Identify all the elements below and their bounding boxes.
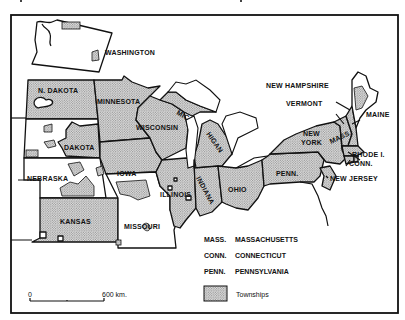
label-penn: PENN.: [276, 170, 298, 177]
township-map: WASHINGTON N. DAKOTA DAKOTA NEBRASKA KAN…: [0, 0, 405, 320]
label-iowa: IOWA: [117, 170, 136, 177]
label-n-dakota: N. DAKOTA: [38, 87, 78, 94]
label-new-york-a: NEW: [303, 130, 320, 137]
legend-abbr-conn: CONN.: [204, 252, 227, 259]
label-wisconsin: WISCONSIN: [136, 124, 178, 131]
label-rhode-island: RHODE I.: [352, 151, 385, 158]
label-new-hampshire: NEW HAMPSHIRE: [266, 82, 329, 89]
legend-abbr-penn: PENN.: [204, 268, 225, 275]
label-illinois: ILLINOIS: [160, 191, 191, 198]
scale-start: 0: [28, 291, 32, 298]
legend-townships-swatch: [204, 286, 227, 301]
label-ohio: OHIO: [228, 186, 247, 193]
state-penn: [262, 152, 324, 186]
scale-end: 600 km.: [102, 291, 127, 298]
legend-abbr-mass: MASS.: [204, 236, 226, 243]
legend-name-mass: MASSACHUSETTS: [235, 236, 298, 243]
scale-bar: 0 600 km.: [28, 291, 127, 301]
legend: MASS. MASSACHUSETTS CONN. CONNECTICUT PE…: [204, 236, 298, 301]
legend-name-conn: CONNECTICUT: [235, 252, 287, 259]
legend-name-penn: PENNSYLVANIA: [235, 268, 289, 275]
label-maine: MAINE: [366, 111, 390, 118]
state-ohio: [218, 160, 264, 210]
caption-fragment: [20, 0, 242, 2]
state-washington: [32, 20, 112, 72]
label-missouri: MISSOURI: [124, 223, 160, 230]
label-kansas: KANSAS: [60, 218, 91, 225]
label-conn: CONN.: [349, 160, 373, 167]
label-minnesota: MINNESOTA: [97, 98, 140, 105]
legend-townships-label: Townships: [236, 291, 269, 299]
label-new-jersey: NEW JERSEY: [330, 175, 378, 182]
label-washington: WASHINGTON: [105, 49, 155, 56]
label-nebraska: NEBRASKA: [27, 175, 68, 182]
label-new-york-b: YORK: [301, 139, 322, 146]
label-vermont: VERMONT: [286, 100, 323, 107]
label-dakota: DAKOTA: [64, 144, 95, 151]
